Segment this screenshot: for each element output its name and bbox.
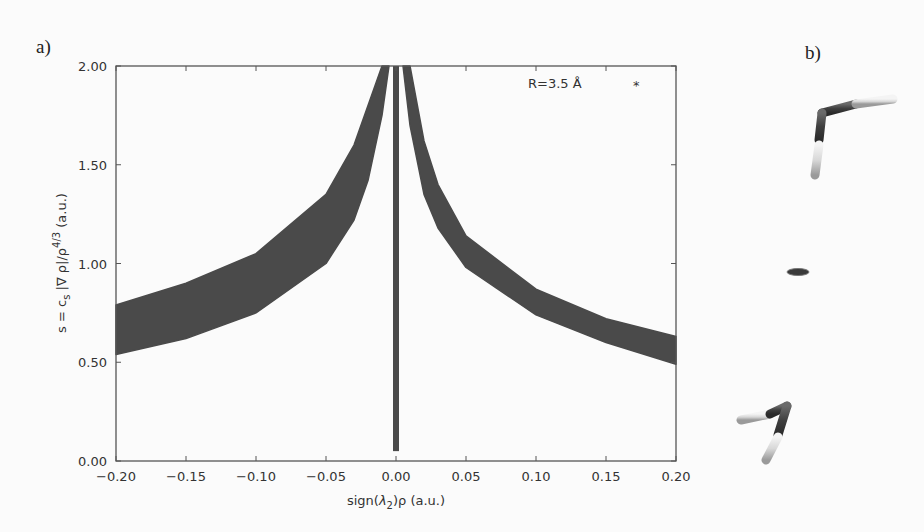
central-spike <box>393 66 399 451</box>
left-branch-band <box>116 66 389 354</box>
y-tick-label: 0.00 <box>78 454 107 469</box>
nci-isosurface-disc <box>787 269 809 276</box>
right-branch-band <box>403 66 676 364</box>
x-axis-title: sign(λ2)ρ (a.u.) <box>347 493 445 511</box>
x-tick-label: −0.15 <box>166 469 206 484</box>
y-tick-label: 1.50 <box>78 158 107 173</box>
x-tick-label: 0.20 <box>662 469 691 484</box>
y-tick-label: 0.50 <box>78 355 107 370</box>
x-tick-label: 0.00 <box>382 469 411 484</box>
water-molecule-top <box>815 99 893 175</box>
x-tick-label: −0.10 <box>236 469 276 484</box>
molecule-render <box>720 80 920 500</box>
y-tick-label: 2.00 <box>78 59 107 74</box>
y-tick-label: 1.00 <box>78 257 107 272</box>
panel-label-b: b) <box>805 42 821 64</box>
x-tick-label: 0.10 <box>522 469 551 484</box>
x-tick-label: 0.05 <box>452 469 481 484</box>
y-axis-title: s = cs |∇ ρ|/ρ4/3 (a.u.) <box>51 193 72 333</box>
x-tick-label: 0.15 <box>592 469 621 484</box>
x-tick-label: −0.05 <box>306 469 346 484</box>
nci-scatter-plot: −0.20−0.15−0.10−0.050.000.050.100.150.20… <box>0 0 740 532</box>
water-molecule-bottom <box>741 406 787 460</box>
x-tick-label: −0.20 <box>96 469 136 484</box>
distance-annotation: R=3.5 Å <box>528 76 582 91</box>
data-bands <box>116 66 676 451</box>
legend-marker: * <box>633 78 640 93</box>
